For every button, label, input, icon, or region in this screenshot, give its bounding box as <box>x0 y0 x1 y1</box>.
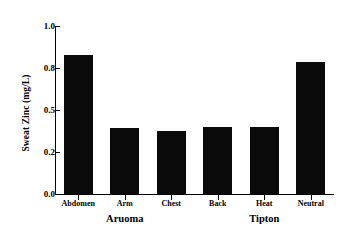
bar-neutral <box>296 62 325 194</box>
y-tick-label: 0.5 <box>25 106 55 115</box>
y-tick-label: 0.8 <box>25 64 55 73</box>
group-label-aruoma: Aruoma <box>75 213 175 224</box>
y-tick-label: 0.2 <box>25 148 55 157</box>
y-tick-label: 1.0 <box>25 22 55 31</box>
bar-abdomen <box>64 55 93 194</box>
x-axis-line <box>55 194 334 195</box>
y-tick-mark <box>55 110 60 111</box>
group-label-tipton: Tipton <box>214 213 314 224</box>
y-tick-mark <box>55 152 60 153</box>
x-tick-label-neutral: Neutral <box>281 200 341 209</box>
y-tick-2: 0.5 <box>14 110 55 111</box>
y-tick-mark <box>55 68 60 69</box>
bar-chest <box>157 131 186 194</box>
bar-arm <box>110 128 139 194</box>
y-tick-label: 0.0 <box>25 190 55 199</box>
y-tick-3: 0.2 <box>14 152 55 153</box>
bar-back <box>203 127 232 194</box>
y-tick-mark <box>55 26 60 27</box>
y-tick-4: 0.0 <box>14 194 55 195</box>
y-tick-mark <box>55 194 60 195</box>
bar-chart-figure: Sweat Zinc (mg/L) 1.00.80.50.20.0 Abdome… <box>0 0 346 241</box>
bar-heat <box>250 127 279 194</box>
y-tick-1: 0.8 <box>14 68 55 69</box>
y-tick-0: 1.0 <box>14 26 55 27</box>
